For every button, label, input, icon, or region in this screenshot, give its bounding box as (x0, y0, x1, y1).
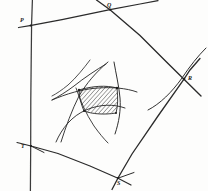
vertex-label-P: P (20, 17, 24, 23)
node-P (30, 25, 32, 27)
vertex-label-S: S (117, 180, 120, 186)
geometric-figure: P Q R S T (0, 0, 208, 191)
node-Q (109, 9, 111, 11)
shaded-quadrilateral (79, 86, 118, 114)
vertex-label-T: T (21, 143, 25, 149)
node-R (183, 78, 186, 81)
figure-canvas (0, 0, 208, 191)
hatched-region-fill (79, 86, 118, 114)
node-S (117, 177, 119, 179)
vertex-label-R: R (188, 75, 192, 81)
node-T (30, 145, 32, 147)
vertex-label-Q: Q (107, 2, 111, 8)
